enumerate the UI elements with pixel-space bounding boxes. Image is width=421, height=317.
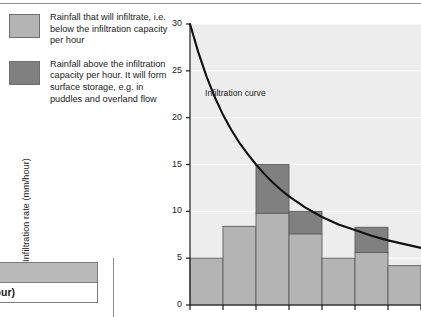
page-root: Rainfall that will infiltrate, i.e. belo… xyxy=(0,0,421,317)
chart-plot-area xyxy=(0,0,421,317)
infiltration-chart: Infiltration rate (mm/hour) 0 5 10 15 20… xyxy=(0,0,421,317)
infiltration-curve-label: Infiltration curve xyxy=(205,88,266,98)
